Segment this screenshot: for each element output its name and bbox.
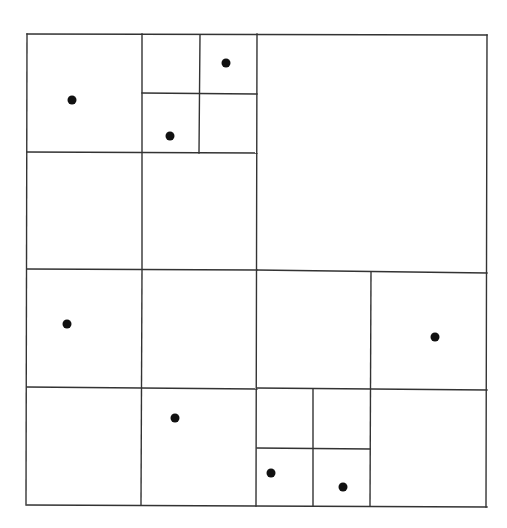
data-point-p2 — [222, 59, 231, 68]
data-point-p1 — [68, 96, 77, 105]
quadtree-cell-boundaries — [26, 34, 487, 507]
quadtree-data-points — [63, 59, 440, 492]
cell-boundary-outer-right — [486, 35, 487, 507]
data-point-p4 — [63, 320, 72, 329]
cell-boundary-se-horizontal — [257, 388, 487, 390]
data-point-p6 — [171, 414, 180, 423]
cell-boundary-nw-ne-horizontal — [142, 93, 257, 94]
cell-boundary-outer-bottom — [27, 505, 487, 507]
data-point-p5 — [431, 333, 440, 342]
cell-boundary-se-sw-horizontal — [257, 448, 370, 449]
cell-boundary-sw-horizontal — [27, 387, 257, 389]
quadtree-diagram — [0, 0, 507, 528]
data-point-p7 — [267, 469, 276, 478]
data-point-p3 — [166, 132, 175, 141]
cell-boundary-nw-horizontal — [27, 152, 257, 153]
data-point-p8 — [339, 483, 348, 492]
cell-boundary-mid-horizontal-right — [257, 270, 487, 273]
